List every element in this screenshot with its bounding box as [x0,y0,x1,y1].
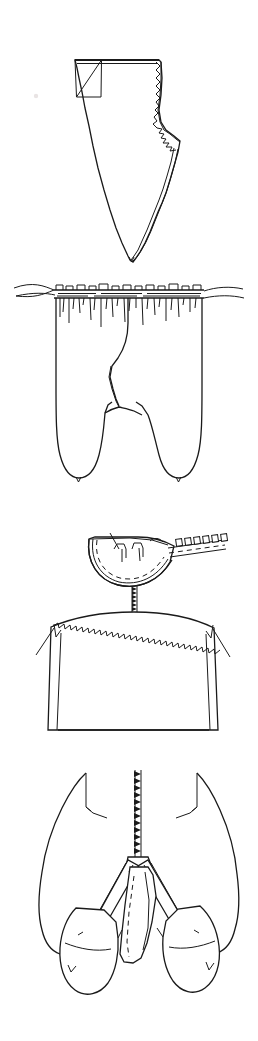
figure-gathered-waistband-trousers [0,265,258,490]
right-leg-notch-tick [192,807,197,811]
right-leg-outline [136,298,202,478]
zipper-tooth [185,538,192,546]
left-leg-notch-tick [86,807,91,811]
left-leg-top-notch [86,773,107,818]
zipper-tooth [194,537,201,545]
paper-speck [34,94,38,98]
right-rounded-leg-end [163,906,220,992]
figure-trouser-front-pattern-piece [0,0,258,265]
collar-outer-shape [89,537,174,586]
figure-crotch-gusset-with-zipper [0,700,258,1041]
zipper-tooth [203,536,210,544]
zipper-tooth [176,539,183,547]
zipper-tooth [221,534,228,542]
right-gusset-join [157,928,163,937]
inseam-bridge [105,407,142,415]
illustration-sheet [0,0,258,1041]
zipper-tape-bottom-edge [170,549,226,557]
right-leg-top-notch [176,773,197,818]
pattern-piece-outline [75,60,180,262]
waistband-gather-puckers [56,284,201,290]
waist-tail-right-lower [204,296,244,298]
left-rounded-leg-end [60,908,118,994]
center-zipper-teeth [132,587,137,611]
left-leg-outline [56,298,112,478]
zipper-tooth [212,535,219,543]
waist-tail-right-upper [204,287,243,291]
